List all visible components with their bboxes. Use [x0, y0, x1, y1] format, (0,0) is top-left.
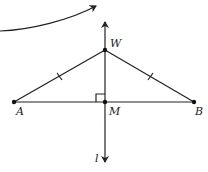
- label-w: W: [110, 37, 123, 50]
- label-m: M: [108, 105, 121, 118]
- point-b: [192, 100, 196, 104]
- label-b: B: [194, 105, 203, 118]
- curved-pointer-arrow: [0, 6, 96, 31]
- tick-mark-wb: [148, 73, 153, 80]
- point-w: [103, 48, 107, 52]
- point-a: [12, 100, 16, 104]
- geometry-diagram: W A M B l: [0, 0, 208, 172]
- segment-wb: [105, 50, 194, 102]
- label-l: l: [95, 152, 99, 165]
- point-m: [103, 100, 107, 104]
- label-a: A: [15, 105, 24, 118]
